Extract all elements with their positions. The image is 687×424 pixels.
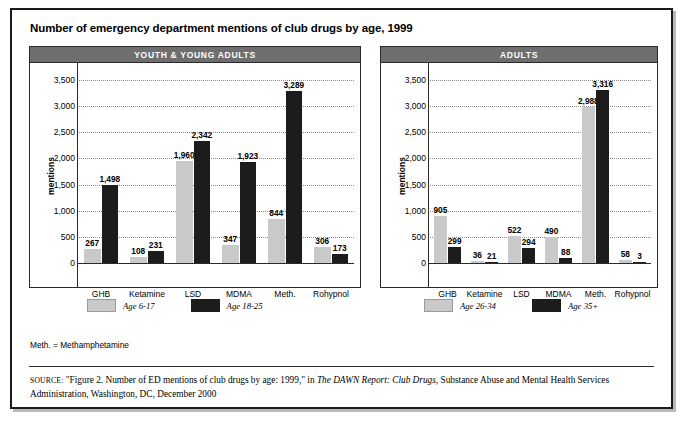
y-tick-label: 0 [70, 258, 75, 268]
bar-value-label: 2,342 [191, 130, 212, 140]
bar-group: 522294 [503, 63, 540, 263]
plot-area-adults: mentions 05001,0001,5002,0002,5003,0003,… [381, 63, 657, 288]
bar: 844 [268, 219, 285, 263]
bar-group: 108231 [124, 63, 170, 263]
page-title: Number of emergency department mentions … [30, 22, 413, 34]
bar: 3 [633, 262, 646, 263]
x-tick-label: LSD [503, 289, 540, 299]
x-tick-label: Meth. [577, 289, 614, 299]
legend-item: Age 26-34 [424, 299, 496, 312]
bar-value-label: 88 [561, 247, 570, 257]
bar-value-label: 3,289 [283, 80, 304, 90]
y-tick-label: 2,000 [405, 153, 426, 163]
x-tick-label: Meth. [262, 289, 308, 299]
legend-youth: Age 6-17 Age 18-25 [87, 299, 263, 312]
bars-container-youth: 2671,4981082311,9602,3423471,9238443,289… [78, 63, 354, 263]
source-divider [29, 366, 654, 367]
bar: 267 [84, 249, 101, 263]
bar-value-label: 522 [507, 225, 521, 235]
bar-value-label: 3,316 [592, 79, 613, 89]
x-tick-label: GHB [429, 289, 466, 299]
x-axis-labels-youth: GHBKetamineLSDMDMAMeth.Rohypnol [78, 289, 354, 299]
legend-adults: Age 26-34 Age 35+ [424, 299, 598, 312]
y-tick-label: 3,000 [54, 101, 75, 111]
y-tick-label: 2,000 [54, 153, 75, 163]
y-tick-label: 3,000 [405, 101, 426, 111]
bar-group: 8443,289 [262, 63, 308, 263]
bar-group: 905299 [429, 63, 466, 263]
y-tick-label: 3,500 [54, 75, 75, 85]
y-tick-label: 500 [61, 232, 75, 242]
source-citation: SOURCE: "Figure 2. Number of ED mentions… [30, 374, 653, 400]
bar-value-label: 36 [473, 250, 482, 260]
bar: 88 [559, 258, 572, 263]
panel-header-adults: ADULTS [381, 47, 657, 63]
bar-value-label: 306 [315, 236, 329, 246]
bar-value-label: 1,960 [174, 150, 195, 160]
bar-value-label: 844 [269, 208, 283, 218]
bar-value-label: 267 [85, 238, 99, 248]
bar-value-label: 1,923 [237, 151, 258, 161]
x-tick-label: Ketamine [466, 289, 503, 299]
chart-panel-adults: ADULTS mentions 05001,0001,5002,0002,500… [380, 46, 658, 288]
bar-group: 1,9602,342 [170, 63, 216, 263]
y-tick-label: 1,500 [54, 180, 75, 190]
x-tick-label: GHB [78, 289, 124, 299]
bar: 108 [130, 257, 147, 263]
bar: 522 [508, 236, 521, 263]
bar-group: 2,9883,316 [577, 63, 614, 263]
bar-group: 306173 [308, 63, 354, 263]
bar-value-label: 490 [544, 226, 558, 236]
bar-group: 3621 [466, 63, 503, 263]
x-tick-label: LSD [170, 289, 216, 299]
bars-container-adults: 9052993621522294490882,9883,316583 [429, 63, 651, 263]
legend-swatch-dark-icon [532, 299, 561, 312]
source-part-1: "Figure 2. Number of ED mentions of club… [63, 375, 316, 385]
x-tick-label: MDMA [540, 289, 577, 299]
bar: 294 [522, 248, 535, 263]
bar: 2,988 [582, 107, 595, 263]
gridline [77, 263, 354, 264]
bar-value-label: 905 [433, 205, 447, 215]
x-tick-label: Rohypnol [614, 289, 651, 299]
source-prefix: SOURCE: [30, 376, 63, 385]
bar: 1,960 [176, 161, 193, 263]
bar: 231 [148, 251, 165, 263]
bar-value-label: 1,498 [99, 174, 120, 184]
bar: 1,498 [102, 185, 119, 263]
bar: 347 [222, 245, 239, 263]
bar: 299 [448, 247, 461, 263]
bar-group: 49088 [540, 63, 577, 263]
bar: 3,316 [596, 90, 609, 263]
bar-value-label: 294 [522, 237, 536, 247]
bar-value-label: 173 [333, 243, 347, 253]
y-tick-label: 0 [421, 258, 426, 268]
legend-label: Age 6-17 [123, 301, 155, 311]
legend-item: Age 6-17 [87, 299, 155, 312]
figure-frame: Number of emergency department mentions … [10, 8, 673, 409]
legend-swatch-light-icon [424, 299, 453, 312]
x-axis-labels-adults: GHBKetamineLSDMDMAMeth.Rohypnol [429, 289, 651, 299]
legend-label: Age 26-34 [460, 301, 496, 311]
bar-group: 583 [614, 63, 651, 263]
x-tick-label: MDMA [216, 289, 262, 299]
y-tick-label: 2,500 [405, 127, 426, 137]
y-tick-label: 1,500 [405, 180, 426, 190]
y-tick-label: 1,000 [405, 206, 426, 216]
chart-panel-youth: YOUTH & YOUNG ADULTS mentions 05001,0001… [29, 46, 361, 288]
bar: 490 [545, 237, 558, 263]
legend-swatch-dark-icon [191, 299, 220, 312]
bar: 3,289 [286, 91, 303, 263]
bar-group: 3471,923 [216, 63, 262, 263]
footnote: Meth. = Methamphetamine [30, 340, 129, 350]
bar: 1,923 [240, 162, 257, 263]
bar-value-label: 231 [149, 240, 163, 250]
bar-value-label: 108 [131, 246, 145, 256]
legend-item: Age 35+ [532, 299, 598, 312]
bar-value-label: 347 [223, 234, 237, 244]
y-tick-label: 2,500 [54, 127, 75, 137]
bar: 306 [314, 247, 331, 263]
y-tick-label: 500 [412, 232, 426, 242]
bar: 21 [485, 262, 498, 263]
bar: 58 [619, 260, 632, 263]
